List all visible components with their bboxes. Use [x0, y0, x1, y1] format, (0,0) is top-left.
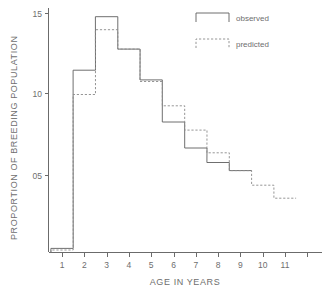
x-axis-ticks — [63, 253, 308, 257]
x-tick-label-10: 10 — [258, 260, 268, 270]
legend-swatch-predicted — [196, 39, 229, 48]
series-line-observed — [51, 17, 252, 253]
chart-figure: PROPORTION OF BREEDING POPULATION 15 10 … — [0, 0, 328, 292]
x-axis-title: AGE IN YEARS — [150, 277, 221, 287]
chart-legend: observed predicted — [196, 13, 269, 49]
series-line-predicted — [51, 30, 296, 253]
x-tick-label-4: 4 — [127, 260, 132, 270]
y-axis-ticks — [45, 14, 49, 176]
legend-label-predicted: predicted — [236, 40, 269, 49]
legend-swatch-observed — [196, 13, 229, 22]
x-tick-label-11: 11 — [281, 260, 290, 270]
legend-label-observed: observed — [236, 14, 269, 23]
x-tick-label-9: 9 — [238, 260, 243, 270]
x-tick-label-1: 1 — [60, 260, 65, 270]
x-tick-label-3: 3 — [104, 260, 109, 270]
y-tick-label-05: 05 — [33, 171, 43, 181]
y-tick-label-10: 10 — [33, 89, 43, 99]
y-axis-tick-labels: 15 10 05 — [33, 9, 43, 181]
x-tick-label-8: 8 — [216, 260, 221, 270]
x-tick-label-6: 6 — [171, 260, 176, 270]
x-tick-label-2: 2 — [82, 260, 87, 270]
x-tick-label-7: 7 — [193, 260, 198, 270]
y-axis-title: PROPORTION OF BREEDING POPULATION — [9, 36, 19, 241]
x-tick-label-5: 5 — [149, 260, 154, 270]
y-tick-label-15: 15 — [33, 9, 43, 19]
step-chart-svg: PROPORTION OF BREEDING POPULATION 15 10 … — [0, 0, 328, 292]
x-axis-tick-labels: 1234567891011 — [60, 260, 290, 270]
